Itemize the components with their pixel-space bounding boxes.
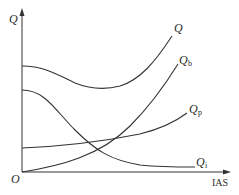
- origin-label: O: [11, 172, 20, 186]
- axes: [22, 14, 226, 172]
- svg-text:Q: Q: [179, 53, 188, 67]
- svg-text:i: i: [205, 161, 208, 170]
- curve-label-qb: Q b: [179, 53, 192, 68]
- curve-q: [22, 36, 172, 88]
- x-axis-label: IAS: [212, 177, 228, 188]
- curve-qp: [22, 113, 187, 148]
- svg-text:b: b: [188, 59, 192, 68]
- svg-text:Q: Q: [196, 155, 205, 169]
- diagram-canvas: Q O IAS Q Q b Q p Q i: [0, 0, 239, 195]
- y-axis-label: Q: [9, 12, 18, 26]
- svg-text:p: p: [198, 108, 202, 117]
- curve-qb: [22, 64, 178, 172]
- curve-label-qi: Q i: [196, 155, 208, 170]
- curve-label-q: Q: [174, 21, 183, 35]
- curve-label-qp: Q p: [189, 102, 202, 117]
- q-vs-ias-diagram: Q O IAS Q Q b Q p Q i: [0, 0, 239, 195]
- y-axis-arrow-icon: [20, 8, 25, 16]
- curve-qi: [22, 90, 195, 167]
- svg-text:Q: Q: [189, 102, 198, 116]
- x-axis-arrow-icon: [223, 170, 231, 175]
